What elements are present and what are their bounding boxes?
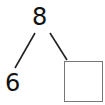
missing-part-box[interactable] <box>64 61 103 102</box>
left-branch-line <box>15 33 35 68</box>
part-number-left: 6 <box>5 71 20 95</box>
whole-number: 8 <box>32 5 47 29</box>
right-branch-line <box>50 33 67 60</box>
